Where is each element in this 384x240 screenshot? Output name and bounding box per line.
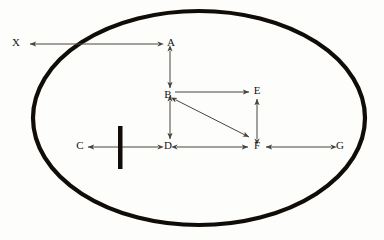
diagram-svg: X A B E C D F G	[0, 0, 384, 240]
node-label-group: X A B E C D F G	[12, 36, 344, 151]
node-label-c: C	[76, 139, 83, 151]
vertical-barrier-bar	[118, 126, 123, 169]
node-label-f: F	[254, 139, 260, 151]
edge-b-f	[176, 100, 249, 137]
enclosing-ellipse	[33, 11, 365, 225]
node-label-x: X	[12, 36, 20, 48]
node-label-a: A	[167, 36, 175, 48]
node-label-b: B	[164, 88, 171, 100]
node-label-e: E	[254, 84, 261, 96]
node-label-g: G	[336, 139, 344, 151]
edge-group	[30, 44, 331, 147]
node-label-d: D	[164, 139, 172, 151]
diagram-canvas: X A B E C D F G	[0, 0, 384, 240]
